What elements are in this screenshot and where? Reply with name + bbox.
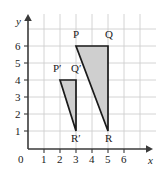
x-tick-label-6: 6 — [121, 154, 127, 165]
x-tick-label-5: 5 — [105, 154, 111, 165]
vertex-label-q-prime: Q′ — [71, 63, 81, 74]
vertex-label-p: P — [73, 29, 79, 40]
triangle-p-prime-q-prime-r-prime — [60, 80, 76, 131]
y-axis — [24, 14, 32, 149]
vertex-label-r-prime: R′ — [71, 133, 81, 144]
y-tick-label-6: 6 — [15, 41, 21, 52]
plot-canvas — [0, 0, 160, 174]
y-tick-label-5: 5 — [15, 58, 21, 69]
y-tick-label-2: 2 — [15, 109, 21, 120]
y-axis-label: y — [16, 16, 21, 27]
x-axis-label: x — [148, 155, 153, 166]
origin-label: 0 — [18, 154, 24, 165]
x-tick-label-2: 2 — [57, 154, 63, 165]
vertex-label-r: R — [105, 133, 112, 144]
vertex-label-q: Q — [105, 29, 113, 40]
y-tick-label-1: 1 — [15, 126, 21, 137]
vertex-label-p-prime: P′ — [53, 63, 62, 74]
x-tick-label-1: 1 — [41, 154, 47, 165]
x-tick-label-3: 3 — [73, 154, 79, 165]
x-tick-label-4: 4 — [89, 154, 95, 165]
y-tick-label-4: 4 — [15, 75, 21, 86]
coordinate-grid-figure: y x 0 1 2 3 4 5 6 6 5 4 3 2 1 P Q R P′ Q… — [0, 0, 160, 174]
y-tick-label-3: 3 — [15, 92, 21, 103]
x-axis — [28, 145, 153, 153]
